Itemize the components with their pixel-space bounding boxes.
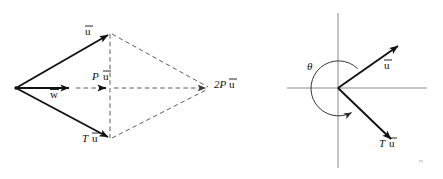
label-2p-u-bar: u <box>229 78 235 90</box>
label-p-u-bar: u <box>103 70 109 82</box>
label-t-prefix-right: T <box>379 137 386 149</box>
label-theta: θ <box>307 60 313 72</box>
label-t-prefix-left: T <box>82 132 89 144</box>
right-panel-group <box>287 13 427 168</box>
vector-figure: u w P u 2P u T u θ u T u <box>0 0 443 179</box>
label-u-bar-right: u <box>384 59 390 71</box>
label-w-bar: w <box>50 88 58 100</box>
label-p-prefix: P <box>91 70 99 82</box>
label-2p-prefix: 2P <box>214 78 227 90</box>
vector-t-u-bar-right <box>338 88 391 139</box>
label-t-u-bar-right: u <box>389 137 395 149</box>
left-panel-group <box>14 26 237 138</box>
dashed-edge-top-right <box>112 34 208 87</box>
dashed-edge-bottom-right <box>112 89 208 138</box>
label-u-bar-left: u <box>85 25 91 37</box>
figure-canvas: u w P u 2P u T u θ u T u <box>0 0 443 179</box>
vector-t-u-bar-left <box>16 88 108 137</box>
label-t-u-bar-left: u <box>92 132 98 144</box>
left-vertex-node <box>14 86 17 89</box>
